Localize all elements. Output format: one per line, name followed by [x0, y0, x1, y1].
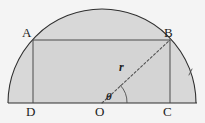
radius-label: r: [119, 61, 124, 73]
geometry-figure: A B D O C r θ: [0, 0, 205, 123]
vertex-label-d: D: [26, 105, 35, 118]
center-label-o: O: [95, 105, 104, 118]
angle-theta-label: θ: [106, 91, 112, 102]
vertex-label-c: C: [163, 105, 172, 118]
vertex-label-b: B: [164, 26, 173, 39]
vertex-label-a: A: [22, 26, 31, 39]
rectangle-fill: [33, 40, 170, 103]
